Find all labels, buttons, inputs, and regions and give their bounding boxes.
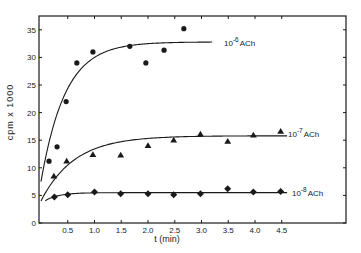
x-tick-label: 3.0: [196, 226, 208, 235]
triangle-marker: [145, 142, 152, 148]
x-tick-label: 3.5: [223, 226, 235, 235]
diamond-marker: [64, 191, 71, 198]
triangle-marker: [117, 152, 124, 158]
y-tick-label: 30: [27, 53, 36, 62]
circle-marker: [181, 26, 186, 31]
x-tick-label: 4.0: [249, 226, 261, 235]
triangle-marker: [277, 128, 284, 134]
x-axis-label: t (min): [154, 234, 180, 244]
triangle-marker: [170, 137, 177, 143]
y-tick-label: 5: [32, 191, 37, 200]
y-tick-label: 15: [27, 136, 36, 145]
diamond-marker: [224, 185, 231, 192]
series-label: 10-6ACh: [224, 36, 255, 48]
circle-marker: [161, 48, 166, 53]
circle-marker: [127, 44, 132, 49]
diamond-marker: [51, 194, 58, 201]
circle-marker: [64, 99, 69, 104]
triangle-marker: [224, 138, 231, 144]
fit-curves: [41, 42, 287, 201]
circle-marker: [46, 159, 51, 164]
circle-marker: [90, 49, 95, 54]
diamond-marker: [250, 189, 257, 196]
circle-marker: [74, 60, 79, 65]
triangle-marker: [197, 131, 204, 137]
x-tick-label: 0.5: [62, 226, 74, 235]
circle-marker: [54, 144, 59, 149]
diamond-marker: [117, 190, 124, 197]
circle-marker: [143, 60, 148, 65]
fit-curve: [45, 193, 287, 201]
triangle-marker: [89, 151, 96, 157]
fit-curve: [41, 136, 287, 201]
diamond-marker: [91, 189, 98, 196]
y-tick-label: 10: [27, 164, 36, 173]
x-tick-label: 2.0: [142, 226, 154, 235]
y-tick-label: 35: [27, 26, 36, 35]
y-axis-label: cpm x 1000: [5, 84, 15, 141]
diamond-marker: [145, 190, 152, 197]
y-tick-label: 25: [27, 81, 36, 90]
x-tick-label: 1.5: [116, 226, 128, 235]
series-label: 10-8ACh: [292, 186, 323, 198]
x-tick-label: 4.5: [276, 226, 288, 235]
x-tick-label: 1.0: [89, 226, 101, 235]
diamond-marker: [277, 188, 284, 195]
data-points: [46, 26, 284, 200]
series-label: 10-7ACh: [288, 127, 319, 139]
triangle-marker: [63, 158, 70, 164]
series-labels: 10-6ACh10-7ACh10-8ACh: [224, 36, 323, 198]
y-tick-label: 20: [27, 109, 36, 118]
triangle-marker: [50, 173, 57, 179]
x-axis-ticks: 0.51.01.52.02.53.03.54.04.5: [62, 16, 288, 235]
diamond-marker: [197, 190, 204, 197]
y-tick-label: 0: [32, 219, 37, 228]
triangle-marker: [250, 132, 257, 138]
chart: 0.51.01.52.02.53.03.54.04.5 051015202530…: [0, 0, 361, 253]
